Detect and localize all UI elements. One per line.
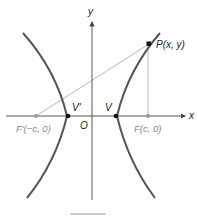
point-p-label: P(x, y) xyxy=(156,39,185,50)
hyperbola-left-branch xyxy=(23,33,67,198)
focus-f-prime-point xyxy=(34,114,38,118)
focus-f-prime-label: F'(−c, 0) xyxy=(16,123,51,134)
origin-label: O xyxy=(80,120,88,131)
caption-bar xyxy=(70,213,106,215)
caption xyxy=(108,211,136,216)
point-p xyxy=(147,42,152,47)
focal-line-f-prime-to-p xyxy=(36,44,149,116)
vertex-v-point xyxy=(114,114,119,119)
vertex-v-prime-point xyxy=(66,114,71,119)
vertex-v-prime-label: V' xyxy=(72,102,82,113)
vertex-v-label: V xyxy=(105,102,113,113)
focus-f-label: F(c, 0) xyxy=(134,123,161,134)
hyperbola-right-branch xyxy=(117,33,160,198)
focus-f-point xyxy=(146,114,150,118)
y-axis-label: y xyxy=(87,6,94,17)
hyperbola-diagram: y x O P(x, y) V' V F'(−c, 0) F(c, 0) xyxy=(0,0,197,216)
x-axis-label: x xyxy=(188,110,195,121)
